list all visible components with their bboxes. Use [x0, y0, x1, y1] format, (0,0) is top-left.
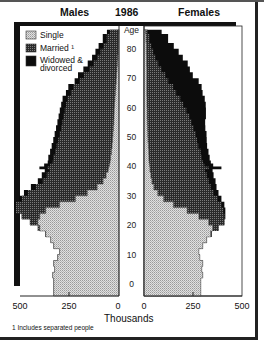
x-tick-label: 0 [141, 301, 146, 311]
bottom-strip [0, 344, 264, 351]
x-tick-label: 0 [115, 301, 120, 311]
footnote: 1 Includes separated people [12, 324, 94, 331]
legend-label-married: Married ¹ [40, 43, 74, 53]
age-tick-label: 80 [127, 44, 137, 54]
age-tick-label: 40 [127, 161, 137, 171]
x-tick-label: 250 [61, 301, 76, 311]
age-axis-title: Age [124, 25, 139, 35]
legend-swatch-widowed [26, 56, 36, 66]
left-edge-strip [14, 22, 20, 286]
x-axis-label: Thousands [104, 313, 153, 324]
population-pyramid: Age01020304050607080 50025000250500 Sing… [0, 0, 264, 351]
age-tick-label: 50 [127, 132, 137, 142]
x-tick-label: 500 [12, 301, 27, 311]
legend-label-single: Single [40, 30, 64, 40]
age-axis: Age01020304050607080 [124, 25, 139, 289]
x-tick-label: 500 [234, 301, 249, 311]
age-tick-label: 60 [127, 103, 137, 113]
legend-label-widowed-line2: divorced [40, 63, 72, 73]
age-tick-label: 30 [127, 191, 137, 201]
age-tick-label: 20 [127, 220, 137, 230]
x-tick-labels: 50025000250500 [12, 301, 249, 311]
legend-swatch-married [26, 44, 36, 52]
x-tick-label: 250 [185, 301, 200, 311]
age-tick-label: 0 [129, 279, 134, 289]
legend-swatch-single [26, 31, 36, 39]
age-tick-label: 10 [127, 250, 137, 260]
age-tick-label: 70 [127, 73, 137, 83]
